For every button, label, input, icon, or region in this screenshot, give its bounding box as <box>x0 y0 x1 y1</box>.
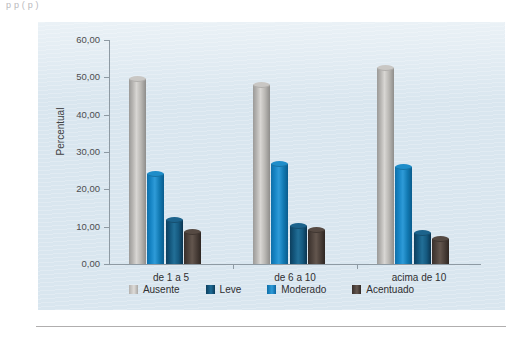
y-tick <box>104 264 109 265</box>
bar-body <box>432 239 449 264</box>
bar-ausente-2 <box>253 82 270 264</box>
bar-body <box>129 79 146 264</box>
bar-body <box>395 167 412 264</box>
bar-moderado-3 <box>395 164 412 264</box>
legend-swatch-icon <box>206 285 215 294</box>
y-tick <box>104 115 109 116</box>
bar-moderado-2 <box>271 161 288 264</box>
top-caption: p p ( p ) <box>6 0 266 10</box>
x-tick-label: de 1 a 5 <box>111 272 231 283</box>
y-tick <box>104 77 109 78</box>
legend-item-moderado[interactable]: Moderado <box>267 284 326 295</box>
bar-body <box>184 232 201 264</box>
x-tick <box>357 264 358 269</box>
x-tick-label: de 6 a 10 <box>235 272 355 283</box>
bar-cap <box>395 164 412 170</box>
y-tick-label: 0,00 <box>56 258 100 269</box>
y-tick-label: 10,00 <box>56 221 100 232</box>
y-tick-label: 40,00 <box>56 109 100 120</box>
bar-cap <box>166 217 183 223</box>
legend-item-acentuado[interactable]: Acentuado <box>352 284 414 295</box>
bar-ausente-1 <box>129 76 146 264</box>
bar-cap <box>184 229 201 235</box>
legend-item-leve[interactable]: Leve <box>206 284 242 295</box>
chart-legend: AusenteLeveModeradoAcentuado <box>38 284 505 295</box>
legend-swatch-icon <box>129 285 138 294</box>
y-tick <box>104 189 109 190</box>
legend-label: Ausente <box>143 284 180 295</box>
legend-item-ausente[interactable]: Ausente <box>129 284 180 295</box>
bar-body <box>414 233 431 264</box>
legend-swatch-icon <box>352 285 361 294</box>
bar-leve-1 <box>166 217 183 264</box>
x-tick-label: acima de 10 <box>359 272 479 283</box>
y-tick-label: 50,00 <box>56 71 100 82</box>
page-divider <box>36 326 506 327</box>
bar-body <box>253 85 270 264</box>
bar-body <box>147 174 164 264</box>
bar-body <box>290 226 307 264</box>
x-axis-line <box>109 264 481 265</box>
bar-cap <box>290 223 307 229</box>
bar-leve-2 <box>290 223 307 264</box>
chart-panel: Percentual 0,0010,0020,0030,0040,0050,00… <box>38 22 505 310</box>
legend-label: Leve <box>220 284 242 295</box>
legend-swatch-icon <box>267 285 276 294</box>
bar-moderado-1 <box>147 171 164 264</box>
bar-leve-3 <box>414 230 431 264</box>
y-tick-label: 20,00 <box>56 183 100 194</box>
bar-body <box>308 230 325 264</box>
y-tick <box>104 227 109 228</box>
legend-label: Moderado <box>281 284 326 295</box>
legend-label: Acentuado <box>366 284 414 295</box>
bar-ausente-3 <box>377 65 394 264</box>
bar-body <box>166 220 183 264</box>
bar-acentuado-2 <box>308 227 325 264</box>
y-tick <box>104 40 109 41</box>
x-tick <box>233 264 234 269</box>
y-axis-title: Percentual <box>55 84 66 180</box>
y-axis-line <box>109 40 110 265</box>
bar-cap <box>377 65 394 71</box>
y-tick <box>104 152 109 153</box>
y-tick-label: 30,00 <box>56 146 100 157</box>
bar-acentuado-3 <box>432 236 449 264</box>
bar-acentuado-1 <box>184 229 201 264</box>
bar-body <box>377 68 394 264</box>
y-tick-label: 60,00 <box>56 34 100 45</box>
bar-cap <box>271 161 288 167</box>
plot-area: Percentual 0,0010,0020,0030,0040,0050,00… <box>38 22 505 310</box>
bar-body <box>271 164 288 264</box>
